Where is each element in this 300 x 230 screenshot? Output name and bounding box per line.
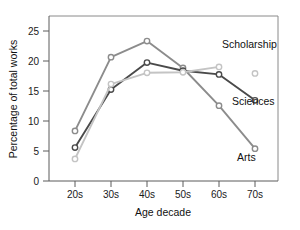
data-point-scholarship-30s[interactable] bbox=[108, 81, 113, 86]
x-axis-tick-labels: 20s 30s 40s 50s 60s 70s bbox=[67, 189, 263, 200]
data-point-scholarship-60s[interactable] bbox=[216, 64, 221, 69]
x-tick-label-40s: 40s bbox=[139, 189, 155, 200]
y-axis-ticks bbox=[43, 31, 49, 181]
x-tick-label-60s: 60s bbox=[211, 189, 227, 200]
y-axis-tick-labels: 0 5 10 15 20 25 bbox=[28, 26, 40, 187]
data-point-sciences-60s[interactable] bbox=[216, 72, 221, 77]
y-tick-label-20: 20 bbox=[28, 56, 40, 67]
y-axis-title: Percentage of total works bbox=[7, 40, 19, 158]
data-point-arts-20s[interactable] bbox=[72, 128, 77, 133]
data-point-sciences-20s[interactable] bbox=[72, 145, 77, 150]
data-point-arts-30s[interactable] bbox=[108, 55, 113, 60]
data-point-arts-60s[interactable] bbox=[216, 103, 221, 108]
y-tick-label-15: 15 bbox=[28, 86, 40, 97]
x-tick-label-50s: 50s bbox=[175, 189, 191, 200]
data-point-scholarship-20s[interactable] bbox=[72, 156, 77, 161]
chart-page: 0 5 10 15 20 25 20s 30s 40s 50s 60s 70s … bbox=[0, 0, 300, 230]
series-label-scholarship: Scholarship bbox=[222, 38, 277, 50]
series-line-scholarship bbox=[75, 67, 219, 159]
data-point-scholarship-40s[interactable] bbox=[144, 70, 149, 75]
x-tick-label-70s: 70s bbox=[247, 189, 263, 200]
y-tick-label-10: 10 bbox=[28, 116, 40, 127]
y-tick-label-5: 5 bbox=[33, 146, 39, 157]
series-label-arts: Arts bbox=[237, 151, 256, 163]
line-chart: 0 5 10 15 20 25 20s 30s 40s 50s 60s 70s … bbox=[0, 0, 300, 230]
y-tick-label-0: 0 bbox=[33, 176, 39, 187]
x-tick-label-20s: 20s bbox=[67, 189, 83, 200]
data-point-scholarship-70s[interactable] bbox=[252, 71, 257, 76]
x-axis-ticks bbox=[75, 181, 255, 187]
x-axis-title: Age decade bbox=[135, 206, 191, 218]
y-tick-label-25: 25 bbox=[28, 26, 40, 37]
series-layer bbox=[72, 38, 257, 161]
x-tick-label-30s: 30s bbox=[103, 189, 119, 200]
series-line-arts bbox=[75, 41, 255, 149]
data-point-scholarship-50s[interactable] bbox=[180, 70, 185, 75]
data-point-arts-40s[interactable] bbox=[144, 38, 149, 43]
data-point-sciences-40s[interactable] bbox=[144, 60, 149, 65]
series-label-sciences: Sciences bbox=[232, 95, 275, 107]
